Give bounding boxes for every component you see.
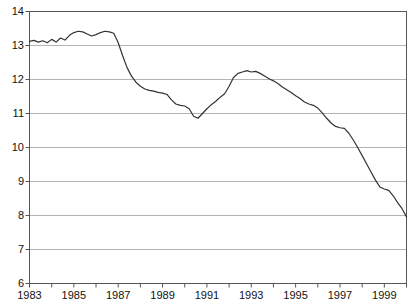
x-tick-label: 1989 [143,290,183,301]
y-tick-label: 9 [2,176,24,187]
y-tick-label: 6 [2,278,24,289]
y-tick-label: 12 [2,74,24,85]
y-tick-label: 13 [2,40,24,51]
x-axis-ticks [30,284,407,288]
x-tick-label: 1985 [54,290,94,301]
x-tick-label: 1987 [98,290,138,301]
y-tick-label: 11 [2,108,24,119]
x-tick-label: 1993 [231,290,271,301]
x-tick-label: 1995 [276,290,316,301]
line-chart: 67891011121314 1983198519871989199119931… [0,0,415,306]
series-1-line [30,31,407,217]
y-tick-label: 14 [2,6,24,17]
x-tick-label: 1997 [320,290,360,301]
y-tick-label: 8 [2,210,24,221]
y-tick-label: 10 [2,142,24,153]
x-tick-label: 1999 [364,290,404,301]
gridlines [30,46,407,250]
x-tick-label: 1983 [10,290,50,301]
chart-plot-area [0,0,415,306]
y-axis-ticks [26,12,30,284]
y-tick-label: 7 [2,244,24,255]
x-tick-label: 1991 [187,290,227,301]
data-series-line [30,31,407,217]
